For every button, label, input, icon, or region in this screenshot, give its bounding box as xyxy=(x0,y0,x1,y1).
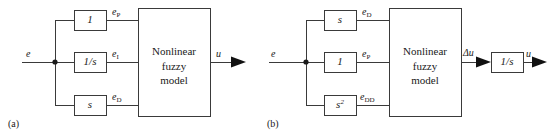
signal-sub-b-3: DD xyxy=(364,96,374,104)
junction-dot-b xyxy=(303,59,308,64)
output-arrowhead-b xyxy=(532,57,547,68)
output-arrowhead-a xyxy=(231,57,246,68)
signal-sub-b-1: D xyxy=(366,11,371,19)
main-block-line1-b: Nonlinear xyxy=(389,44,461,59)
output-label-b: u xyxy=(526,49,531,59)
main-block-line2-b: fuzzy xyxy=(389,59,461,74)
gain-label-a-1: 1 xyxy=(74,14,106,25)
block-diagram-figure: e 1 1/s s eP eI eD Nonlinear fuzzy model… xyxy=(0,0,547,136)
panel-caption-a: (a) xyxy=(8,118,19,129)
main-block-line3-a: model xyxy=(138,73,210,88)
input-label-b: e xyxy=(271,49,275,59)
signal-label-a-3: eD xyxy=(112,92,122,102)
gain-label-b-1: s xyxy=(324,14,356,25)
main-block-line1-a: Nonlinear xyxy=(138,44,210,59)
post-gain-label-b: 1/s xyxy=(491,56,523,67)
signal-sub-b-2: P xyxy=(366,53,370,61)
signal-label-a-2: eI xyxy=(112,49,119,59)
delta-u-label-b: Δu xyxy=(463,48,474,58)
main-block-line3-b: model xyxy=(389,73,461,88)
gain-base-b-1: s xyxy=(338,13,342,25)
signal-label-b-3: eDD xyxy=(360,92,375,102)
main-block-text-b: Nonlinear fuzzy model xyxy=(389,44,461,88)
panel-a-lines xyxy=(0,0,270,136)
delta-u-arrowhead-b xyxy=(476,57,491,68)
input-label-a: e xyxy=(26,49,30,59)
main-block-text-a: Nonlinear fuzzy model xyxy=(138,44,210,88)
junction-dot-a xyxy=(52,59,57,64)
signal-sub-a-3: D xyxy=(116,96,121,104)
output-label-a: u xyxy=(216,49,221,59)
gain-label-a-2: 1/s xyxy=(74,56,106,67)
signal-sub-a-2: I xyxy=(116,53,118,61)
panel-caption-b: (b) xyxy=(267,118,279,129)
signal-label-b-2: eP xyxy=(362,49,370,59)
gain-base-b-2: 1 xyxy=(337,55,343,67)
gain-label-b-2: 1 xyxy=(324,56,356,67)
gain-label-a-3: s xyxy=(74,99,106,110)
panel-b: e s 1 s2 eD eP eDD Nonlinear fuzzy model… xyxy=(267,0,547,136)
gain-sup-b-3: 2 xyxy=(340,98,344,106)
signal-label-a-1: eP xyxy=(112,7,120,17)
main-block-line2-a: fuzzy xyxy=(138,59,210,74)
gain-label-b-3: s2 xyxy=(324,99,356,110)
signal-label-b-1: eD xyxy=(362,7,372,17)
signal-sub-a-1: P xyxy=(116,11,120,19)
panel-a: e 1 1/s s eP eI eD Nonlinear fuzzy model… xyxy=(0,0,270,136)
